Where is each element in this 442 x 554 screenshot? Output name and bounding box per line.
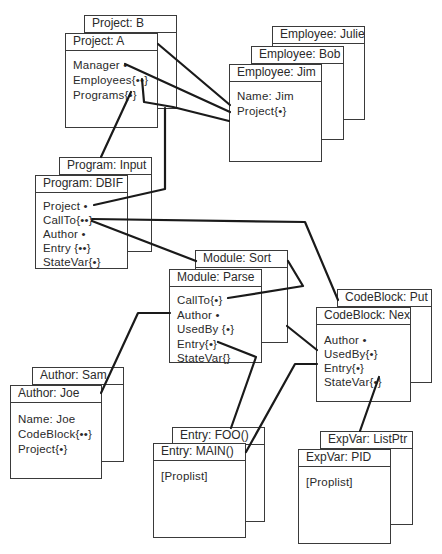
field-name[interactable]: Name: Joe [18,412,101,427]
object-card-employee-jim[interactable]: Employee: Jim Name: Jim Project{•} [229,64,322,162]
object-title: Program: Input [60,158,151,175]
object-card-program-dbif[interactable]: Program: DBIF Project • CallTo{••} Autho… [35,175,128,269]
field-programs[interactable]: Programs{•} [73,88,157,103]
field-statevar[interactable]: StateVar{•} [324,375,410,389]
object-title: ExpVar: PID [299,450,390,467]
object-title: CodeBlock: Next [317,308,410,325]
field-codeblock[interactable]: CodeBlock{••} [18,427,101,442]
object-title: Author: Sam [33,368,123,385]
object-card-codeblock-next[interactable]: CodeBlock: Next Author • UsedBy{•} Entry… [316,307,411,402]
field-usedby[interactable]: UsedBy {•} [177,322,261,337]
object-title: Module: Parse [170,270,261,287]
object-title: Employee: Bob [252,47,343,64]
field-statevar[interactable]: StateVar{•} [43,255,127,269]
object-card-module-parse[interactable]: Module: Parse CallTo{•} Author • UsedBy … [169,269,262,363]
object-fields: Manager • Employees{••} Programs{•} [66,51,157,103]
object-fields: [Proplist] [154,461,245,484]
object-fields: Name: Jim Project{•} [230,82,321,119]
object-title: Author: Joe [11,386,101,403]
field-proplist[interactable]: [Proplist] [306,475,390,490]
field-employees[interactable]: Employees{••} [73,73,157,88]
object-title: Project: A [66,34,157,51]
field-project[interactable]: Project{•} [237,104,321,119]
object-card-expvar-pid[interactable]: ExpVar: PID [Proplist] [298,449,391,544]
object-title: ExpVar: ListPtr [321,432,412,449]
field-author[interactable]: Author • [324,333,410,347]
field-project[interactable]: Project{•} [18,442,101,457]
field-name[interactable]: Name: Jim [237,89,321,104]
object-title: Entry: MAIN() [154,444,245,461]
object-fields: CallTo{•} Author • UsedBy {•} Entry{•} S… [170,287,261,366]
object-title: CodeBlock: Put [338,290,431,307]
field-entry[interactable]: Entry{•} [324,361,410,375]
object-title: Program: DBIF [36,176,127,193]
object-fields: Name: Joe CodeBlock{••} Project{•} [11,403,101,457]
field-proplist[interactable]: [Proplist] [161,469,245,484]
field-entry[interactable]: Entry{•} [177,337,261,352]
object-card-author-joe[interactable]: Author: Joe Name: Joe CodeBlock{••} Proj… [10,385,102,479]
field-statevar[interactable]: StateVar{} [177,351,261,366]
object-title: Employee: Jim [230,65,321,82]
field-author[interactable]: Author • [177,308,261,323]
object-card-project-a[interactable]: Project: A Manager • Employees{••} Progr… [65,33,158,128]
object-fields: Project • CallTo{••} Author • Entry {••}… [36,193,127,269]
field-manager[interactable]: Manager • [73,58,157,73]
object-card-entry-main[interactable]: Entry: MAIN() [Proplist] [153,443,246,538]
field-author[interactable]: Author • [43,227,127,241]
field-callto[interactable]: CallTo{•} [177,293,261,308]
field-usedby[interactable]: UsedBy{•} [324,347,410,361]
object-fields: [Proplist] [299,467,390,490]
field-callto[interactable]: CallTo{••} [43,213,127,227]
field-project[interactable]: Project • [43,199,127,213]
object-title: Employee: Julie [273,27,364,44]
connector-sort-to-next-usedby [287,326,317,350]
field-entry[interactable]: Entry {••} [43,241,127,255]
object-title: Module: Sort [196,251,287,268]
object-fields: Author • UsedBy{•} Entry{•} StateVar{•} [317,325,410,389]
object-title: Project: B [85,16,176,33]
